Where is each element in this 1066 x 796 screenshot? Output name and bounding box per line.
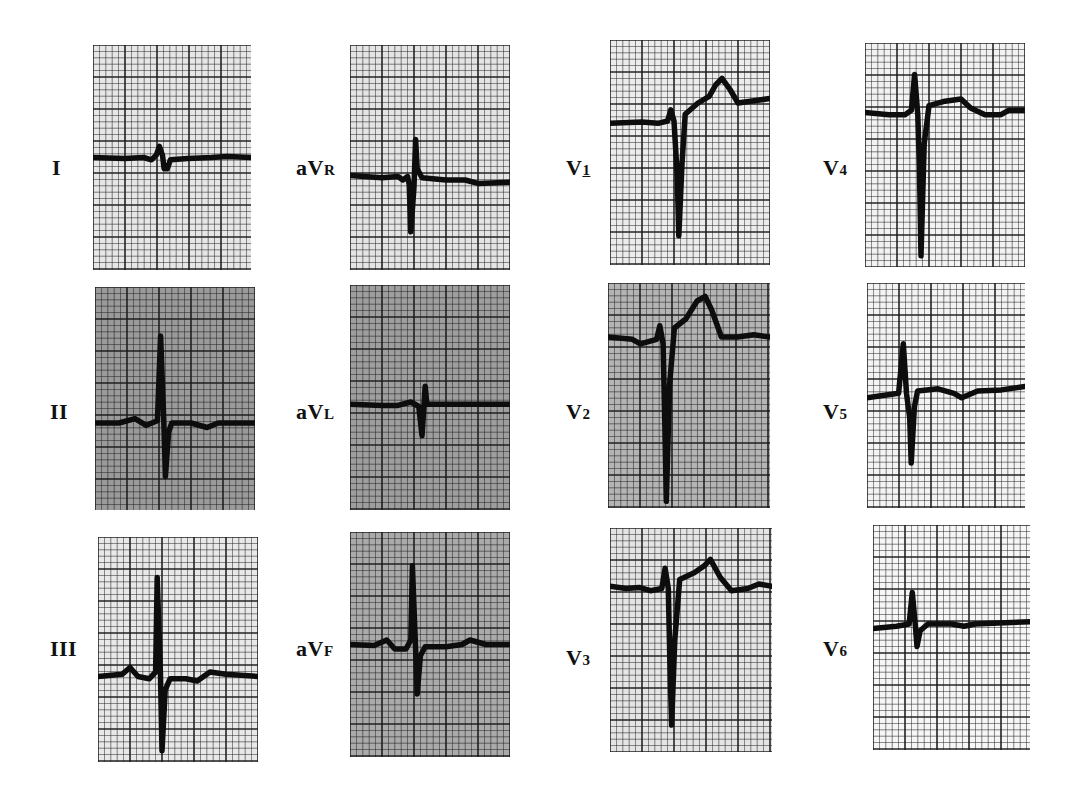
ecg-grid-paper-v6: [873, 525, 1030, 750]
lead-label-subscript: L: [324, 406, 335, 422]
lead-label-v5: V5: [823, 399, 847, 425]
lead-label-ii: II: [50, 399, 68, 425]
ecg-grid-paper-avr: [350, 45, 510, 270]
ecg-grid-paper-avf: [350, 532, 510, 757]
lead-label-main: V: [566, 645, 582, 670]
lead-label-main: I: [52, 155, 61, 180]
lead-label-main: aV: [296, 636, 324, 661]
ecg-grid-paper-v1: [610, 40, 770, 265]
lead-label-v2: V2: [566, 399, 590, 425]
lead-label-main: aV: [296, 155, 324, 180]
ecg-strip-avr: [350, 45, 510, 270]
lead-label-iii: III: [50, 636, 77, 662]
lead-label-main: III: [50, 636, 77, 661]
ecg-grid-paper-v4: [865, 43, 1025, 267]
ecg-grid-paper-iii: [98, 537, 258, 762]
ecg-strip-v3: [610, 528, 772, 752]
lead-label-subscript: 4: [839, 162, 847, 178]
ecg-grid-paper-ii: [95, 287, 255, 510]
ecg-grid-paper-i: [93, 45, 251, 270]
ecg-grid-paper-v3: [610, 528, 772, 752]
lead-label-subscript: R: [324, 162, 335, 178]
ecg-grid-paper-avl: [350, 285, 510, 510]
lead-label-main: V: [566, 155, 582, 180]
lead-label-main: V: [823, 399, 839, 424]
lead-label-i: I: [52, 155, 61, 181]
lead-label-avl: aVL: [296, 399, 334, 425]
lead-label-v3: V3: [566, 645, 590, 671]
lead-label-subscript: 6: [839, 643, 847, 659]
lead-label-main: aV: [296, 399, 324, 424]
ecg-strip-v6: [873, 525, 1030, 750]
lead-label-subscript: 3: [582, 652, 590, 668]
ecg-strip-v4: [865, 43, 1025, 267]
ecg-strip-ii: [95, 287, 255, 510]
ecg-strip-avf: [350, 532, 510, 757]
lead-label-main: V: [823, 636, 839, 661]
lead-label-avr: aVR: [296, 155, 335, 181]
ecg-strip-v5: [867, 283, 1025, 508]
lead-label-v6: V6: [823, 636, 847, 662]
lead-label-subscript: 1: [582, 162, 590, 178]
lead-label-v1: V1: [566, 155, 590, 181]
ecg-strip-iii: [98, 537, 258, 762]
lead-label-main: II: [50, 399, 68, 424]
ecg-grid-paper-v5: [867, 283, 1025, 508]
lead-label-main: V: [566, 399, 582, 424]
lead-label-subscript: 5: [839, 406, 847, 422]
ecg-strip-v1: [610, 40, 770, 265]
lead-label-subscript: F: [324, 643, 334, 659]
ecg-grid-paper-v2: [608, 283, 770, 508]
ecg-strip-avl: [350, 285, 510, 510]
lead-label-main: V: [823, 155, 839, 180]
ecg-strip-i: [93, 45, 251, 270]
lead-label-avf: aVF: [296, 636, 334, 662]
ecg-strip-v2: [608, 283, 770, 508]
lead-label-v4: V4: [823, 155, 847, 181]
lead-label-subscript: 2: [582, 406, 590, 422]
